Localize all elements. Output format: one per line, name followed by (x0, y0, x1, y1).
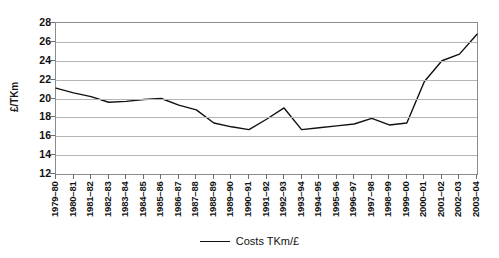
x-tick-mark (458, 174, 459, 179)
x-tick-mark (213, 174, 214, 179)
x-tick-label: 1986–87 (172, 181, 184, 237)
y-tick-mark (50, 60, 55, 61)
x-tick-label: 1995–96 (330, 181, 342, 237)
gridline (56, 136, 477, 137)
x-tick-mark (406, 174, 407, 179)
x-tick-label: 1997–98 (365, 181, 377, 237)
x-tick-label: 2003–04 (470, 181, 482, 237)
legend-label-costs: Costs TKm/£ (236, 236, 299, 247)
gridline (56, 155, 477, 156)
x-tick-mark (73, 174, 74, 179)
x-tick-label: 1983–84 (119, 181, 131, 237)
x-tick-label: 1980–81 (67, 181, 79, 237)
y-tick-label: 12 (29, 168, 51, 179)
y-tick-label: 22 (29, 73, 51, 84)
x-tick-mark (441, 174, 442, 179)
legend-line-swatch (200, 241, 230, 242)
x-tick-mark (388, 174, 389, 179)
chart-legend: Costs TKm/£ (0, 236, 499, 247)
y-axis-tick-labels: 282624222018161412 (24, 0, 51, 258)
x-tick-mark (301, 174, 302, 179)
y-tick-label: 20 (29, 92, 51, 103)
x-tick-label: 2002–03 (452, 181, 464, 237)
x-tick-mark (423, 174, 424, 179)
x-tick-label: 1990–91 (242, 181, 254, 237)
x-tick-label: 1984–85 (137, 181, 149, 237)
y-tick-mark (50, 22, 55, 23)
x-tick-mark (90, 174, 91, 179)
y-tick-label: 24 (29, 55, 51, 66)
x-tick-label: 1981–82 (84, 181, 96, 237)
x-tick-label: 1999–00 (400, 181, 412, 237)
x-tick-mark (371, 174, 372, 179)
gridline (56, 42, 477, 43)
y-tick-mark (50, 98, 55, 99)
gridline (56, 117, 477, 118)
x-tick-mark (160, 174, 161, 179)
y-tick-label: 14 (29, 149, 51, 160)
x-tick-label: 1993–94 (295, 181, 307, 237)
x-tick-label: 1989–90 (224, 181, 236, 237)
x-tick-mark (318, 174, 319, 179)
x-tick-label: 2001–02 (435, 181, 447, 237)
gridline (56, 61, 477, 62)
x-tick-label: 1991–92 (260, 181, 272, 237)
x-tick-label: 1996–97 (347, 181, 359, 237)
x-tick-label: 1987–88 (189, 181, 201, 237)
y-tick-label: 18 (29, 111, 51, 122)
gridline (56, 80, 477, 81)
y-axis-title: £/TKm (2, 52, 26, 142)
y-tick-mark (50, 135, 55, 136)
x-tick-label: 1979–80 (49, 181, 61, 237)
x-tick-mark (178, 174, 179, 179)
x-tick-mark (125, 174, 126, 179)
x-tick-mark (336, 174, 337, 179)
x-tick-label: 2000–01 (417, 181, 429, 237)
x-tick-label: 1988–89 (207, 181, 219, 237)
x-tick-label: 1985–86 (154, 181, 166, 237)
gridline (56, 99, 477, 100)
x-tick-label: 1992–93 (277, 181, 289, 237)
y-tick-mark (50, 116, 55, 117)
y-tick-mark (50, 79, 55, 80)
x-tick-mark (283, 174, 284, 179)
y-tick-label: 28 (29, 17, 51, 28)
x-tick-label: 1998–99 (382, 181, 394, 237)
x-tick-mark (230, 174, 231, 179)
line-chart: £/TKm 282624222018161412 1979–801980–811… (0, 0, 499, 258)
x-tick-mark (353, 174, 354, 179)
x-tick-mark (266, 174, 267, 179)
y-tick-mark (50, 41, 55, 42)
x-tick-mark (55, 174, 56, 179)
x-tick-mark (143, 174, 144, 179)
x-tick-mark (195, 174, 196, 179)
y-tick-label: 16 (29, 130, 51, 141)
x-tick-label: 1994–95 (312, 181, 324, 237)
x-tick-mark (476, 174, 477, 179)
x-tick-mark (108, 174, 109, 179)
y-tick-label: 26 (29, 36, 51, 47)
y-tick-mark (50, 154, 55, 155)
series-costs-tkm-line (56, 34, 477, 129)
x-tick-mark (248, 174, 249, 179)
x-tick-label: 1982–83 (102, 181, 114, 237)
plot-area (55, 22, 478, 175)
